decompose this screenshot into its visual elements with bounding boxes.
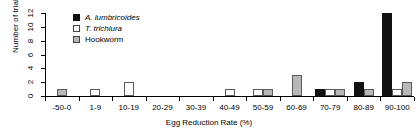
- bar-sp-hw-60-69: [292, 75, 302, 96]
- bar-sp-al-90-100: [382, 13, 392, 96]
- x-tick-label: 40-49: [213, 103, 247, 112]
- bar-sp-tt-40-49: [225, 89, 235, 96]
- legend-item: Hookworm: [73, 34, 140, 45]
- x-tick-mark: [347, 97, 348, 101]
- bar-sp-tt-90-100: [392, 89, 402, 96]
- legend-swatch-icon: [73, 25, 80, 32]
- x-tick-mark: [280, 97, 281, 101]
- y-tick-label: 8: [27, 34, 35, 48]
- x-tick-label: 1-9: [79, 103, 113, 112]
- x-tick-label: 80-89: [347, 103, 381, 112]
- legend-item: T. trichiura: [73, 23, 140, 34]
- y-tick-label: 6: [27, 48, 35, 62]
- legend: A. lumbricoidesT. trichiuraHookworm: [73, 12, 140, 45]
- x-tick-mark: [179, 97, 180, 101]
- bar-sp-al-80-89: [354, 82, 364, 96]
- legend-swatch-icon: [73, 14, 80, 21]
- x-tick-label: 50-59: [246, 103, 280, 112]
- legend-item: A. lumbricoides: [73, 12, 140, 23]
- legend-item-label: T. trichiura: [85, 24, 122, 33]
- x-axis-label: Egg Reduction Rate (%): [0, 118, 418, 127]
- x-tick-mark: [45, 97, 46, 101]
- x-tick-label: -50-0: [45, 103, 79, 112]
- legend-swatch-icon: [73, 36, 80, 43]
- x-tick-mark: [313, 97, 314, 101]
- bar-sp-hw--50-0: [57, 89, 67, 96]
- bar-sp-hw-50-59: [263, 89, 273, 96]
- y-tick-label: 4: [27, 61, 35, 75]
- x-tick-mark: [213, 97, 214, 101]
- bar-sp-al-70-79: [315, 89, 325, 96]
- legend-item-label: Hookworm: [85, 35, 123, 44]
- x-tick-label: 20-29: [146, 103, 180, 112]
- bar-chart-figure: Number of trials 024681012 -50-01-910-19…: [0, 0, 418, 133]
- bar-sp-tt-10-19: [124, 82, 134, 96]
- bar-sp-hw-70-79: [335, 89, 345, 96]
- x-tick-mark: [380, 97, 381, 101]
- legend-item-label: A. lumbricoides: [85, 13, 140, 22]
- x-tick-label: 60-69: [280, 103, 314, 112]
- y-tick-label: 10: [27, 20, 35, 34]
- x-tick-mark: [414, 97, 415, 101]
- x-tick-mark: [112, 97, 113, 101]
- x-axis-line: [45, 96, 414, 97]
- bar-sp-tt-50-59: [253, 89, 263, 96]
- x-tick-mark: [146, 97, 147, 101]
- y-tick-label: 0: [27, 89, 35, 103]
- y-tick-label: 2: [27, 75, 35, 89]
- x-tick-label: 10-19: [112, 103, 146, 112]
- x-tick-label: 90-100: [380, 103, 414, 112]
- bar-sp-hw-80-89: [364, 89, 374, 96]
- x-tick-mark: [79, 97, 80, 101]
- y-axis-label: Number of trials: [12, 0, 20, 72]
- x-tick-mark: [246, 97, 247, 101]
- bar-sp-tt-70-79: [325, 89, 335, 96]
- bar-sp-tt-1-9: [90, 89, 100, 96]
- x-tick-label: 30-39: [179, 103, 213, 112]
- y-tick-label: 12: [27, 6, 35, 20]
- bar-sp-hw-90-100: [402, 82, 412, 96]
- x-tick-label: 70-79: [313, 103, 347, 112]
